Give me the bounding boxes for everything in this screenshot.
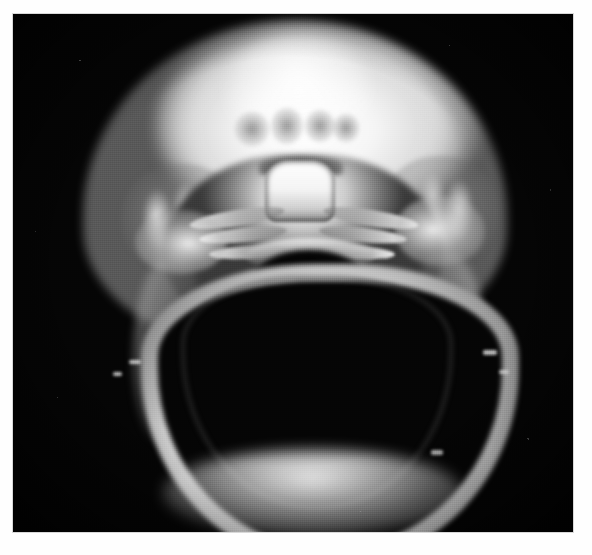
image-artifact [483,350,497,355]
clivus-shadow [259,155,343,175]
mastoid-right [365,336,477,460]
screenshot-root [0,0,592,555]
petrous-ridge-right [319,223,408,246]
image-artifact [431,450,443,455]
petrous-ridge-right [322,203,419,234]
foramen-magnum-rim [259,300,363,326]
nasal-cavity-shadow [281,299,327,325]
zygomatic-arch-right [395,196,485,266]
cervical-spine-column [259,366,363,484]
mandible-arc [141,264,519,532]
calvarium-region [83,20,507,350]
cervical-vertebral-body [265,370,357,422]
temporal-bone-left [121,164,241,274]
zygomatic-arch-left [135,210,227,274]
suture-mark-icon [271,108,303,144]
film-vignette [13,14,573,532]
clivus-crest [265,160,335,222]
suture-mark-icon [235,112,269,146]
foramen-magnum-rim [245,238,375,272]
image-artifact [499,370,509,374]
mandible-symphysis-glow [163,450,463,532]
bright-bone-streak [271,352,307,361]
petrous-ridge-right [317,244,396,261]
foramen-magnum [253,250,365,312]
paranasal-sinus-left [255,320,307,364]
cervical-spine-lower [269,446,357,492]
mandibular-ramus-right [417,252,487,442]
mandibular-ramus-left [133,256,199,444]
film-speckle-noise [13,14,573,532]
petrous-ridge-left [209,244,288,261]
image-artifact [129,360,141,364]
image-artifact [113,372,122,376]
suture-mark-icon [333,114,359,142]
petrous-ridge-left [199,223,288,246]
parietal-highlight [228,32,368,152]
petrous-ridge-left [188,203,285,234]
mandible-inner-cortex [181,276,453,510]
skull-base-region [163,154,443,334]
suture-mark-icon [305,110,335,142]
radiograph-image [13,14,573,532]
paranasal-sinus-right [313,316,369,364]
temporal-bone-right [381,156,499,268]
calvarium-inner-table [121,38,471,308]
mastoid-left [189,314,269,410]
